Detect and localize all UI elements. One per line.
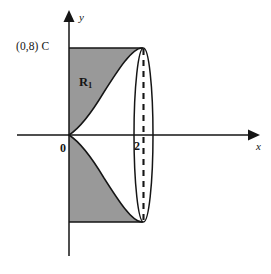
coordinate-axes (17, 10, 260, 256)
label-axis-y: y (79, 12, 84, 23)
region-subscript: 1 (88, 80, 92, 90)
label-axis-x: x (256, 141, 261, 152)
label-x-tick-2: 2 (134, 140, 140, 152)
y-axis-arrowhead (64, 10, 75, 22)
label-origin: 0 (60, 142, 66, 154)
label-point-c: (0,8) C (16, 41, 49, 53)
region-letter: R (79, 75, 88, 89)
shaded-region-upper (69, 48, 142, 135)
label-region-r1: R1 (79, 76, 92, 89)
solid-of-revolution-figure: (0,8) C R1 0 2 x y (0, 0, 271, 274)
x-axis-arrowhead (248, 130, 260, 141)
shaded-region-lower (69, 135, 142, 222)
